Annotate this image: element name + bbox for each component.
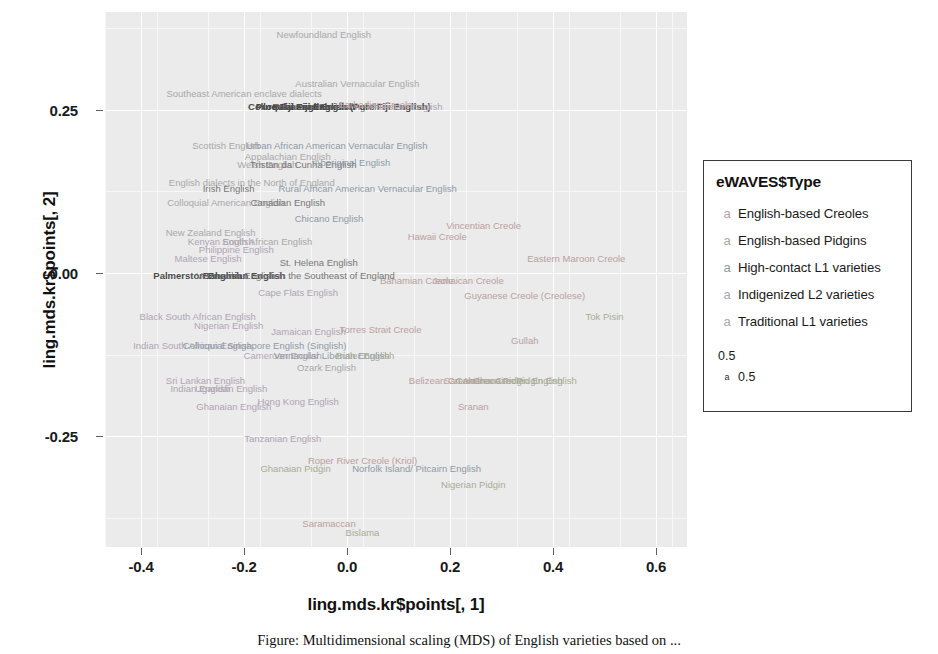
x-tick-mark [450, 548, 451, 555]
data-point-label: Butler English [336, 352, 395, 362]
mds-scatter-figure: ling.mds.kr$points[, 2] Newfoundland Eng… [0, 0, 938, 654]
data-point-label: Rural African American Vernacular Englis… [278, 185, 456, 195]
data-point-label: Tanzanian English [244, 435, 321, 445]
y-tick-label: -0.25 [0, 428, 78, 445]
gridline-vertical-minor [620, 12, 621, 547]
y-tick-label: 0.00 [0, 264, 78, 281]
y-tick-mark [96, 273, 103, 274]
legend-item-label: English-based Creoles [738, 206, 869, 221]
x-tick-mark [656, 548, 657, 555]
data-point-label: Aboriginal English [314, 159, 390, 169]
gridline-horizontal [105, 436, 687, 437]
data-point-label: Vernacular English in the Southeast of E… [196, 271, 395, 281]
gridline-vertical [553, 12, 554, 547]
legend-key-icon: a [716, 314, 738, 329]
data-point-label: Jamaican Creole [432, 276, 503, 286]
gridline-horizontal-minor [105, 355, 687, 356]
x-tick-label: -0.2 [232, 558, 257, 575]
data-point-label: Newfoundland English [277, 30, 372, 40]
x-tick-label: 0.2 [440, 558, 460, 575]
data-point-label: Bislama [346, 528, 380, 538]
plot-panel: Newfoundland EnglishAustralian Vernacula… [105, 12, 687, 547]
data-point-label: Canadian English [251, 198, 325, 208]
data-point-label: Vincentian Creole [446, 221, 521, 231]
x-tick-label: -0.4 [129, 558, 154, 575]
y-tick-mark [96, 436, 103, 437]
legend-key-icon: a [716, 233, 738, 248]
legend-box: eWAVES$Type aEnglish-based CreolesaEngli… [703, 160, 912, 412]
data-point-label: Ugandan English [195, 384, 267, 394]
data-point-label: Urban African American Vernacular Englis… [246, 141, 428, 151]
data-point-label: Nigerian English [194, 322, 263, 332]
legend-item-label: Traditional L1 varieties [738, 314, 868, 329]
legend-key-icon: a [716, 206, 738, 221]
legend-item-label: English-based Pidgins [738, 233, 866, 248]
x-tick-label: 0.0 [337, 558, 357, 575]
legend-item[interactable]: aIndigenized L2 varieties [716, 281, 901, 308]
gridline-horizontal-minor [105, 28, 687, 29]
figure-caption: Figure: Multidimensional scaling (MDS) o… [0, 632, 938, 649]
legend-size-label: 0.5 [738, 370, 755, 384]
data-point-label: Maltese English [174, 254, 241, 264]
y-tick-label: 0.25 [0, 101, 78, 118]
y-tick-mark [96, 110, 103, 111]
gridline-vertical-minor [517, 12, 518, 547]
legend-key-icon: a [716, 287, 738, 302]
legend-item[interactable]: aTraditional L1 varieties [716, 308, 901, 335]
data-point-label: Cape Flats English [258, 288, 338, 298]
data-point-label: Irish English [203, 185, 255, 195]
data-point-label: Sranan [458, 402, 489, 412]
gridline-horizontal-minor [105, 518, 687, 519]
x-tick-mark [244, 548, 245, 555]
data-point-label: Tok Pisin [586, 313, 624, 323]
data-point-label: Colloquial Singapore English (Singlish) [183, 341, 347, 351]
data-point-label: Ghanaian English [196, 402, 271, 412]
data-point-label: Jamaican English [271, 327, 345, 337]
data-point-label: Hawaii Creole [408, 232, 467, 242]
legend-item-label: Indigenized L2 varieties [738, 287, 874, 302]
legend-size-row: a 0.5 [716, 365, 901, 389]
legend-item[interactable]: aEnglish-based Creoles [716, 200, 901, 227]
data-point-label: Norfolk Island/ Pitcairn English [352, 464, 481, 474]
legend-item[interactable]: aHigh-contact L1 varieties [716, 254, 901, 281]
legend-size-block: 0.5 a 0.5 [716, 349, 901, 389]
data-point-label: Torres Strait Creole [340, 326, 422, 336]
legend-item-label: High-contact L1 varieties [738, 260, 881, 275]
x-tick-mark [347, 548, 348, 555]
data-point-label: Ghanaian Pidgin English [473, 376, 577, 386]
data-point-label: Pakistani English [370, 102, 442, 112]
gridline-vertical-minor [105, 12, 106, 547]
gridline-vertical-minor [672, 12, 673, 547]
data-point-label: Nigerian Pidgin [441, 480, 505, 490]
x-tick-mark [141, 548, 142, 555]
data-point-label: Chicano English [295, 215, 364, 225]
data-point-label: Ozark English [297, 363, 356, 373]
data-point-label: Eastern Maroon Creole [527, 254, 625, 264]
data-point-label: St. Helena English [280, 258, 358, 268]
legend-item[interactable]: aEnglish-based Pidgins [716, 227, 901, 254]
legend-items: aEnglish-based CreolesaEnglish-based Pid… [716, 200, 901, 335]
legend-title: eWAVES$Type [716, 173, 901, 191]
data-point-label: Ghanaian Pidgin [260, 464, 330, 474]
gridline-vertical-minor [569, 12, 570, 547]
data-point-label: Guyanese Creole (Creolese) [464, 291, 585, 301]
gridline-vertical [656, 12, 657, 547]
data-point-label: Southeast American enclave dialects [166, 89, 321, 99]
legend-size-label-top: 0.5 [716, 349, 901, 363]
data-point-label: Gullah [511, 337, 538, 347]
x-tick-label: 0.6 [646, 558, 666, 575]
gridline-vertical [141, 12, 142, 547]
legend-key-icon: a [716, 260, 738, 275]
x-tick-mark [553, 548, 554, 555]
x-axis-title: ling.mds.kr$points[, 1] [105, 595, 687, 615]
x-tick-label: 0.4 [543, 558, 563, 575]
legend-size-marker-icon: a [716, 372, 738, 382]
